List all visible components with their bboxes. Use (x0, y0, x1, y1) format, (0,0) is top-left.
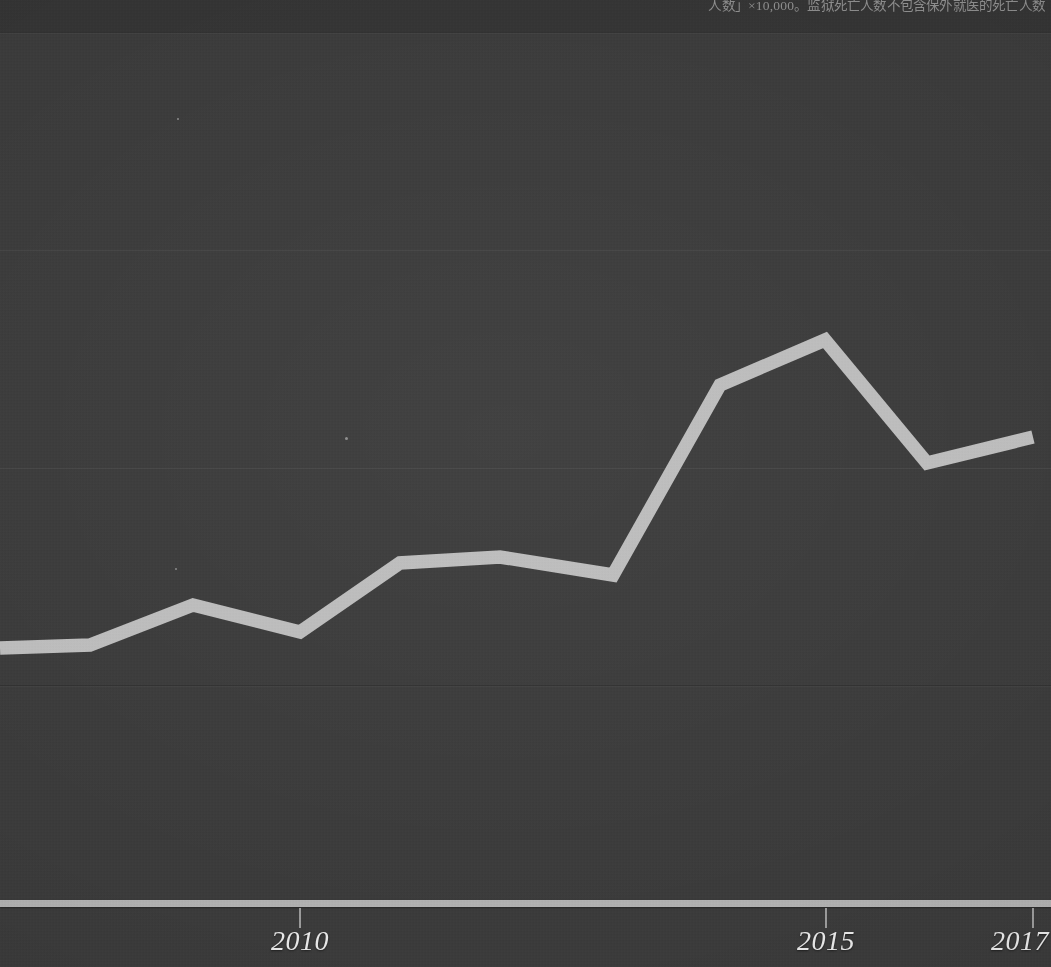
line-series (0, 0, 1051, 967)
chart-canvas: 人数」×10,000。监狱死亡人数不包含保外就医的死亡人数 2010 2015 … (0, 0, 1051, 967)
plot-area: 2010 2015 2017 (0, 0, 1051, 967)
x-axis-line (0, 900, 1051, 907)
scan-speck (175, 568, 177, 570)
scan-speck (177, 118, 179, 120)
x-axis-label-2010: 2010 (271, 925, 329, 957)
scan-speck (345, 437, 348, 440)
x-axis-label-2015: 2015 (797, 925, 855, 957)
x-axis-label-2017: 2017 (991, 925, 1049, 957)
series-polyline (0, 340, 1033, 648)
